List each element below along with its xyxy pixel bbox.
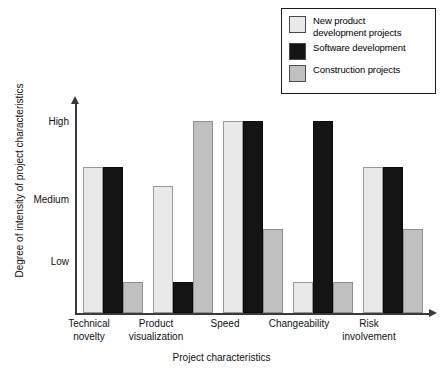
y-tick-label-high: High [48,116,69,127]
bar-group-risk-involvement [363,105,425,313]
bar-new-product-development-projects [83,167,103,313]
legend-swatch-construction-projects [289,65,306,82]
bar-construction-projects [193,121,213,314]
x-axis-title: Project characteristics [0,352,443,363]
bar-software-development [103,167,123,313]
chart-legend: New product development projects Softwar… [281,8,436,94]
bar-new-product-development-projects [293,282,313,313]
legend-swatch-software-development [289,43,306,60]
bar-software-development [173,282,193,313]
legend-label: New product development projects [313,15,401,38]
bar-new-product-development-projects [363,167,383,313]
bar-construction-projects [263,229,283,313]
x-tick-label-technical-novelty: Technical novelty [53,318,125,343]
bar-group-speed [223,105,285,313]
bar-construction-projects [403,229,423,313]
legend-item: Construction projects [289,64,429,82]
x-tick-label-speed: Speed [192,318,258,331]
bar-new-product-development-projects [223,121,243,314]
bar-software-development [383,167,403,313]
legend-label: Software development [313,42,406,54]
bar-group-changeability [293,105,355,313]
plot-area [75,105,435,313]
y-axis-title: Degree of intensity of project character… [14,73,25,288]
legend-swatch-new-product-development-projects [289,16,306,33]
legend-item: Software development [289,42,429,60]
bar-group-technical-novelty [83,105,145,313]
bar-software-development [313,121,333,314]
y-tick-label-low: Low [51,256,69,267]
bar-software-development [243,121,263,314]
legend-item: New product development projects [289,15,429,38]
bar-new-product-development-projects [153,186,173,313]
bar-group-product-visualization [153,105,215,313]
bar-construction-projects [333,282,353,313]
x-tick-label-product-visualization: Product visualization [117,318,195,343]
x-axis-line [75,313,430,315]
bar-chart: New product development projects Softwar… [0,0,443,375]
x-tick-label-risk-involvement: Risk involvement [330,318,408,343]
legend-label: Construction projects [313,64,400,76]
y-tick-label-medium: Medium [33,194,69,205]
bar-construction-projects [123,282,143,313]
y-axis-arrow [71,96,79,104]
